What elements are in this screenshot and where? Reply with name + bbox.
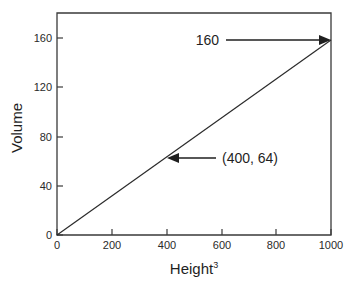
y-tick-label-120: 120	[34, 81, 52, 93]
x-tick-label-800: 800	[267, 239, 285, 251]
x-tick-label-0: 0	[54, 239, 60, 251]
y-axis-ticks	[57, 38, 63, 235]
x-tick-label-600: 600	[213, 239, 231, 251]
y-axis-title: Volume	[8, 103, 25, 153]
x-axis-title-text: Height3	[170, 260, 218, 277]
y-axis-tick-labels: 160 120 80 40 0	[34, 32, 52, 241]
x-axis-title-base: Height	[170, 260, 214, 277]
x-axis-tick-labels: 0 200 400 600 800 1000	[54, 239, 343, 251]
annotation-400-64-label: (400, 64)	[222, 150, 278, 166]
annotation-400-64-arrowhead	[167, 153, 179, 163]
x-tick-label-400: 400	[158, 239, 176, 251]
plot-frame	[57, 13, 331, 235]
series-volume-line	[57, 40, 331, 235]
plot-border	[57, 13, 331, 235]
y-axis-title-text: Volume	[8, 103, 25, 153]
x-tick-label-200: 200	[103, 239, 121, 251]
annotation-160-arrowhead	[319, 35, 331, 45]
chart-canvas: 160 120 80 40 0 0 200 400 600 800 1000	[0, 0, 355, 283]
chart-figure: 160 120 80 40 0 0 200 400 600 800 1000	[0, 0, 355, 283]
x-tick-label-1000: 1000	[319, 239, 343, 251]
data-series-line	[57, 40, 331, 235]
y-tick-label-80: 80	[40, 131, 52, 143]
x-axis-ticks	[57, 229, 331, 235]
x-axis-title-superscript: 3	[213, 260, 218, 270]
annotation-400-64: (400, 64)	[167, 150, 278, 166]
annotation-160-label: 160	[196, 32, 220, 48]
y-tick-label-160: 160	[34, 32, 52, 44]
x-axis-title: Height3	[170, 260, 218, 277]
y-tick-label-0: 0	[46, 229, 52, 241]
annotation-160: 160	[196, 32, 331, 48]
y-tick-label-40: 40	[40, 180, 52, 192]
